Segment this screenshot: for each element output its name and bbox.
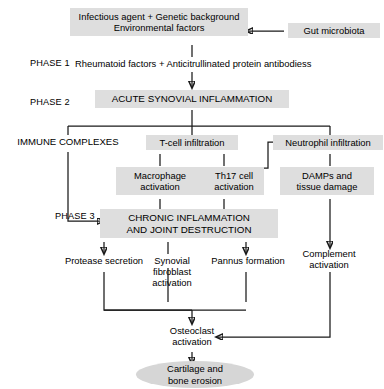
node-neutrophil-infiltration: Neutrophil infiltration bbox=[273, 135, 383, 150]
node-damps-tissue-damage: DAMPs and tissue damage bbox=[280, 167, 374, 195]
flowchart-diagram: PHASE 1 PHASE 2 PHASE 3 Infectious agent… bbox=[0, 0, 384, 389]
node-immune-complexes: IMMUNE COMPLEXES bbox=[6, 136, 130, 147]
node-tcell-infiltration: T-cell infiltration bbox=[146, 135, 238, 150]
node-cartilage-bone-erosion: Cartilage and bone erosion bbox=[136, 361, 254, 388]
node-chronic-inflammation: CHRONIC INFLAMMATION AND JOINT DESTRUCTI… bbox=[100, 209, 278, 238]
node-pannus-formation: Pannus formation bbox=[206, 255, 290, 266]
node-osteoclast-activation: Osteoclast activation bbox=[152, 325, 232, 347]
node-gut-microbiota: Gut microbiota bbox=[288, 23, 380, 38]
node-th17-activation: Th17 cell activation bbox=[204, 167, 264, 195]
node-protease-secretion: Protease secretion bbox=[56, 255, 152, 266]
phase-label-2: PHASE 2 bbox=[30, 97, 70, 107]
node-synovial-fibroblast-activation: Synovial fibroblast activation bbox=[146, 255, 198, 288]
node-complement-activation: Complement activation bbox=[292, 248, 366, 270]
wire-complement-to-osteoclast bbox=[216, 272, 330, 337]
node-trigger: Infectious agent + Genetic background En… bbox=[70, 8, 248, 36]
node-macrophage-activation: Macrophage activation bbox=[116, 167, 204, 195]
node-acute-synovial-inflammation: ACUTE SYNOVIAL INFLAMMATION bbox=[95, 90, 289, 108]
node-autoantibodies: Rheumatoid factors + Anticitrullinated p… bbox=[75, 58, 375, 69]
phase-label-3: PHASE 3 bbox=[55, 211, 95, 221]
phase-label-1: PHASE 1 bbox=[30, 58, 70, 68]
